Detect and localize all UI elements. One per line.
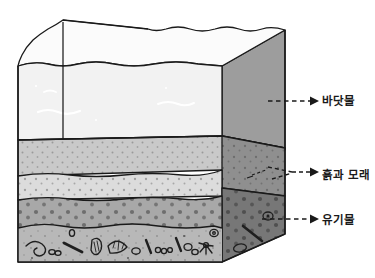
- layered-sediment-diagram: 바닷물 흙과 모래 유기물: [0, 0, 375, 278]
- label-seawater: 바닷물: [322, 92, 356, 108]
- layer-organic-side: [222, 188, 285, 262]
- label-soil-sand: 흙과 모래: [322, 166, 370, 182]
- caption-strip: [0, 270, 375, 278]
- diagram-illustration: [0, 0, 375, 278]
- layer-organic-front: [16, 196, 226, 266]
- label-organic: 유기물: [322, 211, 356, 227]
- layer-sand-front: [18, 170, 222, 200]
